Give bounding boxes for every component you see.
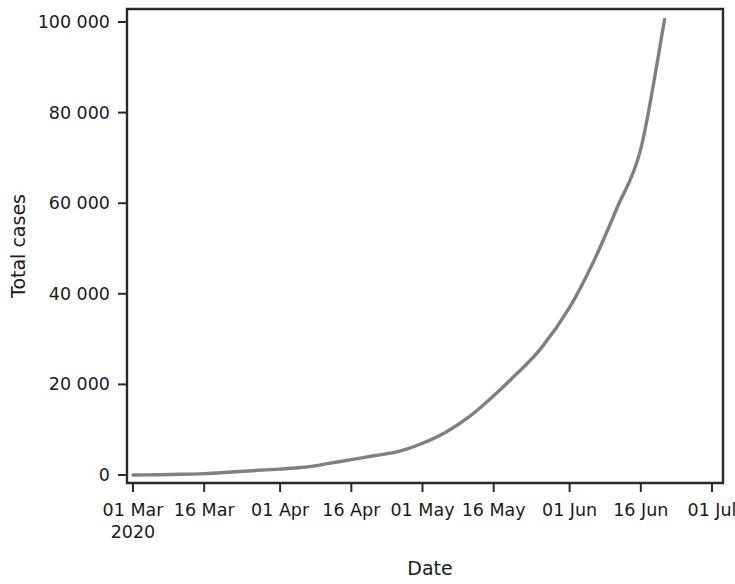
x-tick-label: 01 May	[390, 500, 454, 520]
x-tick-label: 16 May	[462, 500, 526, 520]
x-tick-label: 16 Mar	[174, 500, 236, 520]
x-tick-label: 01 Apr	[251, 500, 310, 520]
y-tick-label: 20 000	[49, 374, 110, 394]
y-tick-label: 60 000	[49, 193, 110, 213]
x-tick-label: 01 Mar	[103, 500, 165, 520]
y-tick-label: 100 000	[38, 12, 110, 32]
chart-background	[0, 0, 735, 584]
x-tick-label: 01 Jul	[688, 500, 735, 520]
x-tick-label: 16 Jun	[613, 500, 668, 520]
y-tick-label: 40 000	[49, 284, 110, 304]
line-chart: 020 00040 00060 00080 000100 000 01 Mar1…	[0, 0, 735, 584]
y-axis-title: Total cases	[7, 194, 29, 299]
x-tick-label: 16 Apr	[322, 500, 381, 520]
x-tick-label: 01 Jun	[542, 500, 597, 520]
x-axis-year-sublabel: 2020	[111, 522, 156, 542]
y-tick-label: 80 000	[49, 103, 110, 123]
x-axis-title: Date	[407, 557, 452, 579]
chart-figure: 020 00040 00060 00080 000100 000 01 Mar1…	[0, 0, 735, 584]
y-tick-label: 0	[99, 465, 110, 485]
